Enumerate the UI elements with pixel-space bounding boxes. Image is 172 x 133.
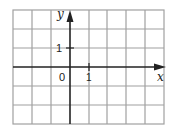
- x-axis-label: x: [157, 70, 164, 84]
- origin-label: 0: [59, 71, 65, 83]
- y-tick-label: 1: [56, 42, 62, 54]
- x-tick-label: 1: [86, 72, 92, 83]
- y-axis-arrow-icon: [67, 10, 74, 22]
- coordinate-plane: y x 0 1 1: [0, 0, 172, 133]
- y-axis-label: y: [56, 7, 64, 21]
